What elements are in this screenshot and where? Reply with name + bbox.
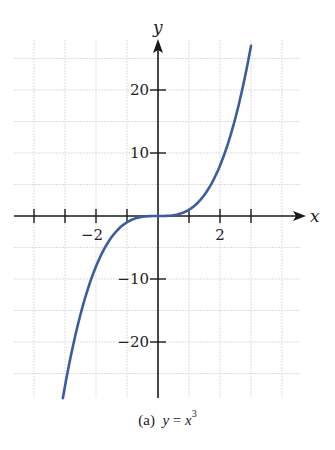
figure-caption: (a) y = x3 [0, 410, 335, 429]
caption-exponent: 3 [192, 408, 197, 419]
caption-rhs: x [185, 412, 192, 428]
x-tick-label: −2 [81, 226, 103, 244]
grid-lines [14, 40, 300, 398]
axes: x y [14, 17, 320, 398]
x-axis-label: x [310, 206, 320, 226]
x-tick-label: 2 [215, 226, 225, 244]
y-tick-label: −10 [117, 270, 149, 288]
caption-lhs: y [162, 412, 169, 428]
caption-equals: = [173, 412, 181, 428]
caption-prefix: (a) [138, 412, 155, 428]
cubic-function-plot: x y −222010−10−20 [0, 0, 335, 410]
y-tick-label: −20 [117, 333, 149, 351]
y-tick-label: 20 [130, 81, 149, 99]
y-tick-label: 10 [130, 144, 149, 162]
curve-y-equals-x-cubed [63, 46, 251, 398]
y-axis-label: y [152, 17, 163, 37]
